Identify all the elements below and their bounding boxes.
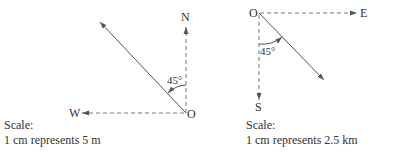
scale-title: Scale: <box>246 118 275 132</box>
bearing-arrow <box>100 22 186 113</box>
north-label: N <box>181 10 190 24</box>
origin-label: O <box>187 107 196 121</box>
angle-label: 45° <box>167 73 182 87</box>
angle-label: 45° <box>260 44 275 58</box>
south-label: S <box>255 100 262 114</box>
east-label: E <box>360 6 367 20</box>
left-bearing-diagram <box>82 22 186 113</box>
origin-label: O <box>249 6 258 20</box>
scale-text: 1 cm represents 2.5 km <box>246 133 358 147</box>
west-label: W <box>69 106 80 120</box>
scale-text: 1 cm represents 5 m <box>4 133 101 147</box>
scale-title: Scale: <box>4 118 33 132</box>
